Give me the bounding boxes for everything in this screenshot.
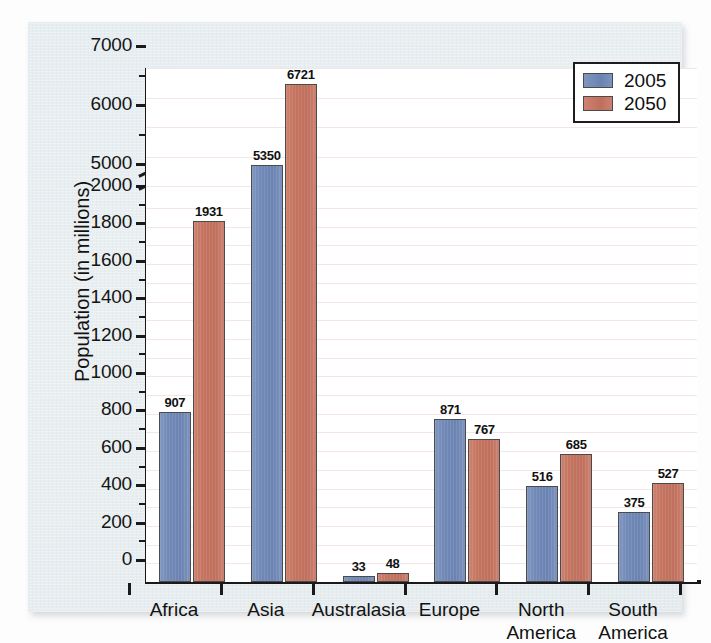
bar-value-label: 6721 (273, 68, 329, 82)
chart-screenshot: Population (in millions) 020040060080010… (0, 0, 711, 643)
bar-africa-2050[interactable] (193, 221, 225, 582)
y-tick-label: 1000 (28, 361, 132, 383)
gridline (146, 157, 697, 158)
x-axis-label-line: Australasia (312, 598, 404, 621)
x-axis-separator (404, 583, 407, 595)
bar-north-america-2050[interactable] (560, 454, 592, 582)
x-axis-label-line: Europe (404, 598, 496, 621)
gridline (146, 470, 697, 471)
x-axis-separator (587, 583, 590, 595)
bar-south-america-2050[interactable] (652, 483, 684, 582)
figure-panel: Population (in millions) 020040060080010… (28, 22, 682, 612)
plot-inner: 9071931535067213348871767516685375527 (146, 68, 697, 582)
gridline (146, 489, 697, 490)
y-tick-label: 1600 (28, 249, 132, 271)
bar-value-label: 871 (422, 402, 478, 417)
gridline (146, 339, 697, 340)
gridline (146, 358, 697, 359)
gridline (146, 451, 697, 452)
bar-europe-2005[interactable] (434, 419, 466, 582)
x-axis-separator (312, 583, 315, 595)
bar-australasia-2005[interactable] (343, 576, 375, 582)
y-tick-label: 1400 (28, 286, 132, 308)
gridline (146, 320, 697, 321)
x-axis-label-line: Asia (220, 598, 312, 621)
y-tick-label: 6000 (28, 93, 132, 115)
bar-value-label: 1931 (181, 204, 237, 219)
x-axis-label-line: Africa (128, 598, 220, 621)
gridline (146, 283, 697, 284)
bar-asia-2005[interactable] (251, 165, 283, 582)
bar-asia-2050[interactable] (285, 84, 317, 582)
x-axis-separator (679, 583, 682, 595)
bar-africa-2005[interactable] (159, 412, 191, 582)
x-axis-label-line: North (495, 598, 587, 621)
legend-swatch-2005 (583, 73, 613, 88)
plot-area: 9071931535067213348871767516685375527 (146, 68, 697, 582)
x-axis-label-australasia: Australasia (312, 598, 404, 621)
x-axis-separator (495, 583, 498, 595)
bar-north-america-2005[interactable] (526, 486, 558, 582)
x-axis-separator (128, 583, 131, 595)
x-axis-label-north-america: NorthAmerica (495, 598, 587, 643)
x-axis-label-asia: Asia (220, 598, 312, 621)
y-tick-label: 1200 (28, 324, 132, 346)
gridline (146, 127, 697, 128)
x-axis-label-line: America (495, 621, 587, 643)
gridline (146, 395, 697, 396)
x-axis-label-south-america: SouthAmerica (587, 598, 679, 643)
gridline (146, 526, 697, 527)
gridline (146, 563, 697, 564)
y-tick-label: 2000 (28, 174, 132, 196)
y-tick-label: 5000 (28, 152, 132, 174)
bar-value-label: 48 (365, 556, 421, 571)
gridline (146, 432, 697, 433)
legend-item-2005[interactable]: 2005 (583, 69, 666, 92)
x-axis-label-europe: Europe (404, 598, 496, 621)
y-tick-label: 800 (28, 398, 132, 420)
bar-value-label: 527 (640, 466, 696, 481)
legend-item-2050[interactable]: 2050 (583, 92, 666, 115)
legend-label-2005: 2005 (624, 70, 666, 92)
legend: 2005 2050 (573, 62, 680, 123)
legend-swatch-2050 (583, 96, 613, 111)
y-tick-label: 1800 (28, 211, 132, 233)
gridline (146, 186, 697, 187)
gridline (146, 545, 697, 546)
bar-south-america-2005[interactable] (618, 512, 650, 582)
bar-australasia-2050[interactable] (377, 573, 409, 582)
gridline (146, 227, 697, 228)
y-tick-major (136, 45, 146, 48)
bar-value-label: 685 (548, 437, 604, 452)
y-tick-label: 7000 (28, 34, 132, 56)
gridline (146, 376, 697, 377)
bar-europe-2050[interactable] (468, 439, 500, 582)
y-tick-label: 600 (28, 436, 132, 458)
y-tick-label: 400 (28, 473, 132, 495)
x-axis-label-africa: Africa (128, 598, 220, 621)
gridline (146, 245, 697, 246)
x-axis-label-line: America (587, 621, 679, 643)
legend-label-2050: 2050 (624, 93, 666, 115)
y-tick-label: 0 (28, 548, 132, 570)
y-tick-label: 200 (28, 511, 132, 533)
gridline (146, 302, 697, 303)
gridline (146, 264, 697, 265)
x-axis-separator (220, 583, 223, 595)
bar-value-label: 767 (456, 422, 512, 437)
x-axis-label-line: South (587, 598, 679, 621)
